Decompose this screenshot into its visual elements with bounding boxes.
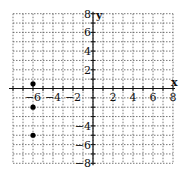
y-tick-label: −4 bbox=[75, 120, 91, 133]
x-tick-label: 2 bbox=[110, 91, 117, 104]
x-tick-label: 4 bbox=[130, 91, 137, 104]
x-tick-label: −4 bbox=[45, 91, 61, 104]
x-axis-label: x bbox=[171, 76, 178, 89]
y-tick-label: −8 bbox=[75, 157, 91, 170]
coordinate-plane: −6−4−224688642−4−6−8yx bbox=[0, 0, 182, 172]
x-tick-label: −6 bbox=[25, 91, 41, 104]
y-tick-label: −6 bbox=[75, 139, 91, 152]
y-axis-label: y bbox=[95, 9, 103, 22]
x-tick-label: 8 bbox=[170, 91, 177, 104]
data-point bbox=[30, 133, 35, 138]
y-tick-label: 6 bbox=[84, 26, 91, 39]
y-tick-label: 4 bbox=[84, 45, 91, 58]
y-tick-label: 2 bbox=[84, 64, 91, 77]
x-tick-label: −2 bbox=[65, 91, 81, 104]
data-point bbox=[30, 81, 35, 86]
y-tick-label: 8 bbox=[84, 8, 91, 21]
x-tick-label: 6 bbox=[150, 91, 157, 104]
axes bbox=[9, 12, 175, 166]
data-point bbox=[30, 105, 35, 110]
